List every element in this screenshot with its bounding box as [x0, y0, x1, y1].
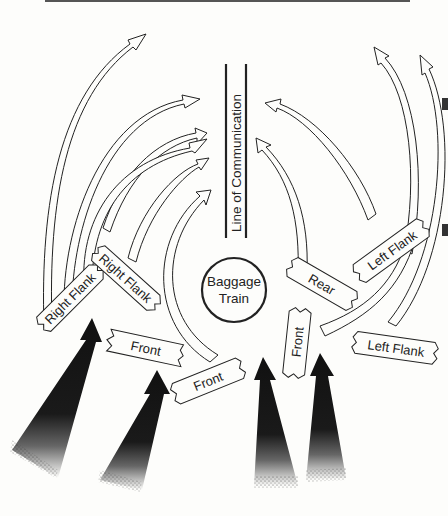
banner-front-vertical: Front	[282, 307, 311, 379]
baggage-train: Baggage Train	[202, 258, 266, 322]
banner-front-center: Front	[169, 357, 248, 406]
maneuver-arrow-rear	[256, 138, 307, 276]
page-mark	[442, 98, 448, 110]
banner-left-flank-lower: Left Flank	[351, 331, 439, 365]
attack-arrow-3	[254, 357, 298, 488]
baggage-train-label-1: Baggage	[207, 274, 261, 289]
line-of-communication-label: Line of Communication	[229, 94, 244, 232]
page-mark	[442, 224, 448, 236]
maneuver-diagram: Line of Communication Baggage Train	[0, 0, 448, 516]
maneuver-arrow-left-flank-upper	[265, 99, 376, 220]
attack-arrow-2	[98, 370, 170, 492]
banner-front-left: Front	[105, 329, 186, 367]
attack-arrow-4	[306, 353, 346, 482]
svg-text:Front: Front	[288, 326, 306, 358]
baggage-train-label-2: Train	[219, 291, 249, 306]
attack-arrow-1	[10, 318, 102, 478]
svg-text:Right Flank: Right Flank	[96, 251, 155, 306]
banner-rear: Rear	[284, 255, 361, 312]
